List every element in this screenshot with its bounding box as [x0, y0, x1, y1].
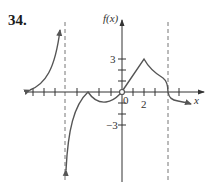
x-axis	[28, 88, 204, 96]
middle-branch-rise-curve	[123, 59, 168, 92]
y-tick-label-3: 3	[110, 53, 116, 65]
function-graph: f(x) x 3 −3 0 2	[0, 0, 218, 190]
x-tick-label-2: 2	[141, 98, 147, 110]
open-point-origin	[120, 90, 125, 95]
x-tick-label-0: 0	[123, 94, 129, 106]
middle-branch-curve	[66, 92, 121, 170]
left-branch-curve	[30, 30, 60, 90]
y-tick-label-neg3: −3	[106, 119, 118, 131]
x-axis-label: x	[193, 94, 199, 106]
y-axis-label: f(x)	[103, 12, 119, 25]
